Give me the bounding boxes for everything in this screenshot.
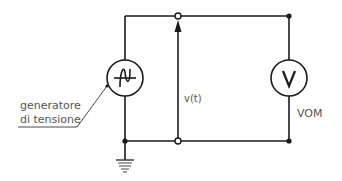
voltage-arrow: [175, 20, 182, 138]
terminal-bottom: [175, 138, 181, 144]
ac-generator-icon: [107, 60, 143, 96]
junction-dot-bottom-right: [286, 138, 291, 143]
junction-dot-bottom-left: [122, 138, 127, 143]
junction-dot-top-right: [286, 13, 291, 18]
terminal-top: [175, 13, 181, 19]
ground-icon: [116, 160, 134, 172]
generator-leader-line: [18, 84, 109, 127]
voltmeter-icon: [271, 60, 307, 96]
circuit-diagram: generatore di tensione v(t) VOM: [0, 0, 342, 181]
